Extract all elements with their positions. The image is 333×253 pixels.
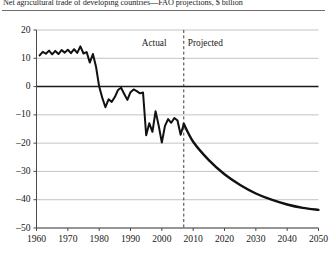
x-tick-label: 1990 bbox=[114, 234, 148, 244]
y-tick-label: –50 bbox=[4, 223, 31, 233]
gridlines bbox=[37, 30, 319, 228]
x-tick-label: 2050 bbox=[302, 234, 333, 244]
x-tick-label: 2000 bbox=[145, 234, 179, 244]
x-tick-label: 1980 bbox=[82, 234, 116, 244]
x-tick-label: 2030 bbox=[239, 234, 273, 244]
annotation-projected: Projected bbox=[188, 38, 223, 48]
x-tick-label: 1970 bbox=[51, 234, 85, 244]
x-tick-label: 2040 bbox=[270, 234, 304, 244]
x-tick-label: 2010 bbox=[176, 234, 210, 244]
data-series-projected bbox=[184, 124, 319, 210]
annotation-actual: Actual bbox=[142, 38, 167, 48]
y-tick-label: –20 bbox=[4, 138, 31, 148]
y-tick-label: –30 bbox=[4, 166, 31, 176]
y-tick-label: 20 bbox=[4, 25, 31, 35]
y-tick-label: 10 bbox=[4, 53, 31, 63]
y-tick-label: –40 bbox=[4, 194, 31, 204]
data-series-actual bbox=[40, 46, 184, 142]
x-tick-label: 1960 bbox=[20, 234, 54, 244]
y-tick-label: 0 bbox=[4, 81, 31, 91]
x-tick-label: 2020 bbox=[208, 234, 242, 244]
y-tick-label: –10 bbox=[4, 109, 31, 119]
